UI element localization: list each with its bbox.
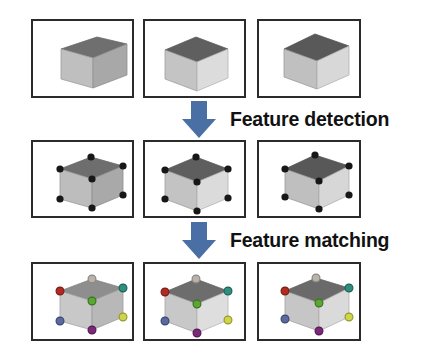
cube-image-1-2	[145, 21, 244, 96]
step-feature-matching: Feature matching	[182, 222, 389, 260]
match-point-front-left	[161, 317, 169, 325]
panel-row3-col1	[31, 262, 134, 341]
feature-point	[56, 165, 63, 172]
match-point-front-bottom	[193, 329, 201, 337]
feature-point	[88, 175, 95, 182]
match-point-top-right	[224, 287, 232, 295]
panel-row1-col3	[257, 19, 361, 98]
match-point-top-right	[119, 284, 127, 292]
down-arrow-icon	[182, 222, 216, 260]
match-point-front-bottom	[315, 327, 323, 335]
feature-point	[193, 207, 200, 214]
match-point-top-left	[161, 288, 169, 296]
match-point-top-left	[281, 287, 289, 295]
match-point-top-right	[345, 284, 353, 292]
cube-image-2-3	[259, 142, 359, 216]
feature-point	[224, 165, 231, 172]
match-point-front-right	[345, 313, 353, 321]
feature-point	[192, 153, 199, 160]
match-point-front-top	[88, 297, 96, 305]
match-point-front-bottom	[88, 326, 96, 334]
down-arrow-icon	[182, 101, 216, 139]
cube-image-2-2	[145, 142, 244, 216]
match-point-front-right	[224, 316, 232, 324]
match-point-top-left	[56, 287, 64, 295]
cube-image-3-1	[33, 264, 132, 339]
match-point-front-right	[119, 313, 127, 321]
panel-row2-col3	[257, 140, 361, 218]
cube-image-1-1	[33, 21, 132, 96]
match-point-top-back	[88, 275, 96, 283]
feature-point	[56, 195, 63, 202]
cube-image-3-3	[259, 264, 359, 339]
feature-point	[281, 193, 288, 200]
feature-point	[161, 166, 168, 173]
feature-point	[345, 162, 352, 169]
cube-image-3-2	[145, 264, 244, 339]
feature-point	[161, 195, 168, 202]
feature-point	[119, 191, 126, 198]
step-label-feature-matching: Feature matching	[230, 231, 389, 251]
panel-row3-col2	[143, 262, 246, 341]
feature-point	[315, 205, 322, 212]
figure-canvas: Feature detection	[0, 0, 441, 359]
match-point-top-back	[312, 274, 320, 282]
feature-point	[87, 153, 94, 160]
cube-image-2-1	[33, 142, 132, 216]
match-point-front-left	[281, 315, 289, 323]
feature-point	[281, 165, 288, 172]
feature-point	[315, 177, 322, 184]
panel-row2-col2	[143, 140, 246, 218]
panel-row1-col2	[143, 19, 246, 98]
feature-point	[119, 162, 126, 169]
panel-row1-col1	[31, 19, 134, 98]
cube-image-1-3	[259, 21, 359, 96]
match-point-front-left	[56, 317, 64, 325]
feature-point	[311, 151, 318, 158]
match-point-top-back	[192, 275, 200, 283]
step-feature-detection: Feature detection	[182, 101, 389, 139]
feature-point	[345, 191, 352, 198]
feature-point	[224, 194, 231, 201]
step-label-feature-detection: Feature detection	[230, 110, 389, 130]
feature-point	[193, 178, 200, 185]
panel-row3-col3	[257, 262, 361, 341]
panel-row2-col1	[31, 140, 134, 218]
match-point-front-top	[193, 300, 201, 308]
match-point-front-top	[315, 299, 323, 307]
feature-point	[88, 204, 95, 211]
